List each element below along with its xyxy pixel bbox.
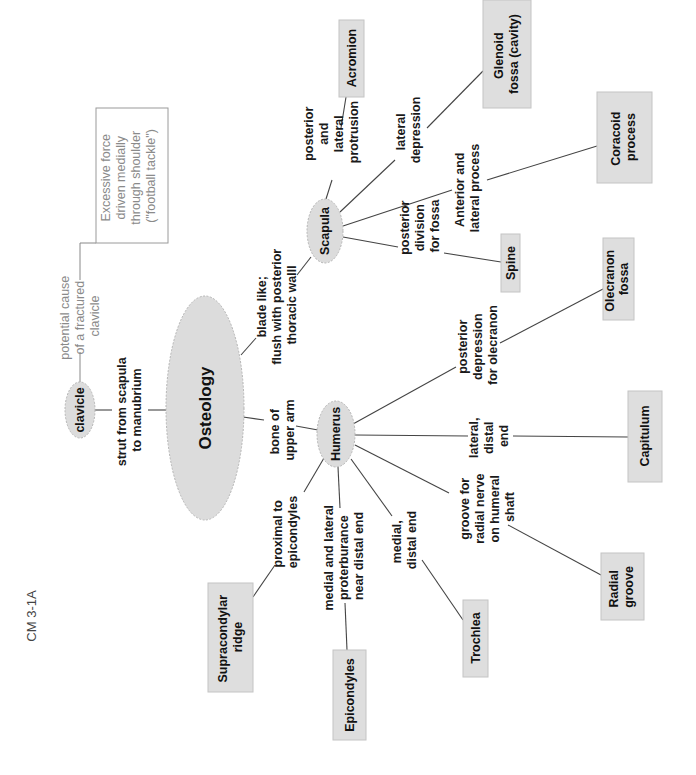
annotation-link-line-1: potential cause bbox=[58, 276, 72, 360]
svg-text:Scapula: Scapula bbox=[318, 206, 332, 255]
svg-text:clavicle: clavicle bbox=[73, 387, 87, 432]
svg-text:Epicondyles: Epicondyles bbox=[343, 658, 357, 732]
annotation-link-line-2: of a fractured bbox=[73, 281, 87, 355]
annotation-link-line-3: clavicle bbox=[88, 295, 102, 336]
node-humerus[interactable]: Humerus bbox=[317, 401, 355, 467]
box-coracoid-process[interactable]: Coracoid process bbox=[597, 92, 652, 183]
box-spine[interactable]: Spine bbox=[501, 234, 520, 292]
annotation-box-line-4: ("football tackle") bbox=[144, 129, 158, 223]
svg-text:medial, distal end: medial, distal end bbox=[390, 511, 419, 569]
humerus-label: Humerus bbox=[329, 407, 343, 461]
connector-osteology-scapula-b bbox=[297, 257, 311, 275]
box-glenoid-fossa[interactable]: Glenoid fossa (cavity) bbox=[483, 0, 531, 108]
svg-text:lateral depression: lateral depression bbox=[394, 97, 423, 164]
connector-humerus-trochlea-a bbox=[351, 459, 392, 516]
link-label-acromion: posterior and lateral protrusion bbox=[302, 101, 361, 164]
node-clavicle[interactable]: clavicle bbox=[65, 382, 95, 438]
box-trochlea[interactable]: Trochlea bbox=[463, 600, 488, 677]
link-label-spine: posterior division for fossa bbox=[398, 197, 442, 255]
connector-humerus-epicondyles-a bbox=[338, 467, 340, 508]
connector-humerus-olecranon-b bbox=[500, 289, 603, 343]
connector-humerus-radial-a bbox=[355, 445, 449, 493]
scapula-label: Scapula bbox=[318, 206, 332, 255]
connector-humerus-radial-b bbox=[508, 525, 601, 575]
connector-humerus-capitulum-a bbox=[355, 435, 468, 436]
svg-text:posterior and late: posterior and lateral protrusion bbox=[302, 101, 361, 164]
svg-text:blade like; flush with p: blade like; flush with posterior thoraci… bbox=[255, 245, 299, 364]
connector-scapula-spine-a bbox=[343, 237, 398, 247]
svg-text:proximal to epicondyles: proximal to epicondyles bbox=[271, 496, 300, 568]
connector-humerus-trochlea-b bbox=[422, 560, 463, 620]
connector-scapula-glenoid-b bbox=[427, 71, 483, 128]
node-osteology[interactable]: Osteology bbox=[166, 296, 244, 520]
box-acromion[interactable]: Acromion bbox=[339, 20, 364, 97]
box-epicondyles[interactable]: Epicondyles bbox=[333, 650, 366, 740]
svg-text:medial and lateral prote: medial and lateral proterburance near di… bbox=[322, 501, 366, 610]
annotation-box: Excessive force driven medially through … bbox=[96, 108, 168, 243]
box-capitulum[interactable]: Capitulum bbox=[628, 391, 662, 482]
link-label-osteology-scapula: blade like; flush with posterior thoraci… bbox=[255, 245, 299, 364]
svg-text:Spine: Spine bbox=[504, 246, 518, 280]
link-label-osteology-clavicle: strut from scapula to manubrium bbox=[115, 354, 144, 467]
link-label-osteology-humerus: bone of upper arm bbox=[268, 399, 297, 460]
svg-text:posterior division: posterior division for fossa bbox=[398, 197, 442, 255]
svg-text:Anterior and lateral pro: Anterior and lateral process bbox=[453, 144, 482, 232]
link-label-supracondylar: proximal to epicondyles bbox=[271, 496, 300, 568]
svg-text:Excessive force driven m: Excessive force driven medially through … bbox=[99, 127, 158, 224]
link-label-epicondyles: medial and lateral proterburance near di… bbox=[322, 501, 366, 610]
svg-text:strut from scapula to ma: strut from scapula to manubrium bbox=[115, 354, 144, 467]
annotation-box-line-2: driven medially bbox=[114, 135, 128, 219]
link-label-radial-groove: groove for radial nerve on humeral shaft bbox=[458, 470, 517, 544]
connector-scapula-coracoid-b bbox=[487, 146, 597, 180]
svg-text:CM 3-1A: CM 3-1A bbox=[24, 590, 39, 642]
box-olecranon-fossa[interactable]: Olecranon fossa bbox=[603, 238, 634, 320]
connector-humerus-capitulum-b bbox=[513, 436, 628, 437]
link-label-olecranon: posterior depression for olecranon bbox=[456, 305, 500, 385]
link-label-glenoid: lateral depression bbox=[394, 97, 423, 164]
connector-scapula-glenoid-a bbox=[340, 160, 395, 212]
node-scapula[interactable]: Scapula bbox=[307, 199, 343, 263]
svg-text:Acromion: Acromion bbox=[345, 29, 359, 87]
svg-text:Humerus: Humerus bbox=[329, 407, 343, 461]
link-label-capitulum: lateral, distal end bbox=[467, 414, 511, 458]
connector-osteology-humerus-a bbox=[243, 417, 264, 420]
box-radial-groove[interactable]: Radial groove bbox=[601, 553, 644, 620]
svg-text:posterior depression: posterior depression for olecranon bbox=[456, 305, 500, 385]
annotation-link-label: potential cause of a fractured clavicle bbox=[58, 272, 102, 360]
svg-text:Osteology: Osteology bbox=[196, 366, 215, 450]
svg-text:Radial groove: Radial groove bbox=[607, 566, 636, 608]
box-supracondylar-ridge[interactable]: Supracondylar ridge bbox=[208, 583, 253, 692]
connector-humerus-olecranon-a bbox=[353, 367, 456, 424]
svg-text:bone of upper arm: bone of upper arm bbox=[268, 399, 297, 460]
figure-label: CM 3-1A bbox=[24, 590, 39, 642]
connector-scapula-acromion-a bbox=[326, 180, 332, 199]
svg-text:Capitulum: Capitulum bbox=[638, 405, 652, 466]
concept-map: Osteology clavicle Scapula Humerus Exces… bbox=[0, 0, 696, 775]
svg-text:groove for radial nerve: groove for radial nerve on humeral shaft bbox=[458, 470, 517, 544]
connector-osteology-humerus-b bbox=[296, 426, 318, 430]
link-label-trochlea: medial, distal end bbox=[390, 511, 419, 569]
svg-text:Trochlea: Trochlea bbox=[469, 611, 483, 663]
annotation-box-line-3: through shoulder bbox=[129, 131, 143, 225]
svg-text:potential cause of a fra: potential cause of a fractured clavicle bbox=[58, 272, 102, 360]
clavicle-label: clavicle bbox=[73, 387, 87, 432]
connector-osteology-scapula-a bbox=[241, 338, 256, 355]
connector-humerus-supracondylar-a bbox=[304, 458, 324, 492]
link-label-coracoid: Anterior and lateral process bbox=[453, 144, 482, 232]
connector-humerus-supracondylar-b bbox=[253, 565, 275, 597]
osteology-label: Osteology bbox=[196, 366, 215, 450]
svg-text:lateral, distal en: lateral, distal end bbox=[467, 414, 511, 458]
connector-scapula-spine-b bbox=[444, 253, 501, 262]
annotation-box-line-1: Excessive force bbox=[99, 134, 113, 222]
svg-text:Coracoid process: Coracoid process bbox=[609, 108, 638, 166]
connector-humerus-epicondyles-b bbox=[345, 603, 347, 650]
